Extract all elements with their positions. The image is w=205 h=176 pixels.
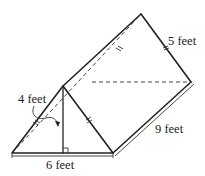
arrow-head-icon xyxy=(55,121,60,127)
ridge-edge xyxy=(63,14,141,86)
hidden-edge-diagonal xyxy=(12,14,141,153)
base-label: 6 feet xyxy=(46,158,75,172)
length-edge xyxy=(113,82,191,153)
length-dimension-line xyxy=(115,84,194,156)
prism-diagram: 4 feet 5 feet 6 feet 9 feet xyxy=(0,0,205,176)
back-slant-edge xyxy=(141,14,191,82)
congruent-tick-marks xyxy=(33,46,169,125)
slant-side-label: 5 feet xyxy=(168,34,197,48)
length-label: 9 feet xyxy=(155,122,184,136)
height-label: 4 feet xyxy=(18,92,47,106)
